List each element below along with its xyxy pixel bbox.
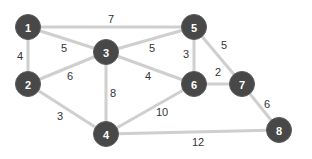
node-4: 4 bbox=[94, 122, 119, 147]
edge-weight-label: 12 bbox=[192, 136, 204, 148]
node-3: 3 bbox=[94, 40, 119, 65]
edge-weight-label: 6 bbox=[264, 98, 270, 110]
weighted-graph: 745654835231061212345678 bbox=[0, 0, 312, 159]
node-label: 2 bbox=[25, 79, 31, 91]
edge-weight-label: 5 bbox=[149, 42, 155, 54]
edge-weight-label: 6 bbox=[67, 70, 73, 82]
edge-weight-label: 3 bbox=[57, 110, 63, 122]
node-label: 5 bbox=[191, 22, 197, 34]
graph-diagram: 745654835231061212345678 bbox=[0, 0, 312, 159]
node-5: 5 bbox=[182, 15, 207, 40]
node-1: 1 bbox=[16, 15, 41, 40]
edge-weight-label: 8 bbox=[110, 87, 116, 99]
node-2: 2 bbox=[16, 72, 41, 97]
node-7: 7 bbox=[230, 72, 255, 97]
edge-weight-label: 4 bbox=[17, 50, 23, 62]
edge-weight-label: 5 bbox=[61, 42, 67, 54]
edge-weight-label: 4 bbox=[145, 70, 151, 82]
edge-weight-label: 5 bbox=[221, 39, 227, 51]
node-8: 8 bbox=[267, 118, 292, 143]
edge-weight-label: 10 bbox=[156, 106, 168, 118]
edge-2-4 bbox=[28, 84, 106, 134]
node-label: 4 bbox=[103, 129, 110, 141]
edge-4-6 bbox=[106, 84, 194, 134]
node-label: 7 bbox=[239, 79, 245, 91]
node-label: 1 bbox=[25, 22, 31, 34]
node-6: 6 bbox=[182, 72, 207, 97]
edge-weight-label: 3 bbox=[183, 48, 189, 60]
node-label: 3 bbox=[103, 47, 109, 59]
edge-4-8 bbox=[106, 130, 279, 134]
edge-weight-label: 7 bbox=[108, 13, 114, 25]
node-label: 8 bbox=[276, 125, 282, 137]
node-label: 6 bbox=[191, 79, 197, 91]
edge-weight-label: 2 bbox=[215, 66, 221, 78]
